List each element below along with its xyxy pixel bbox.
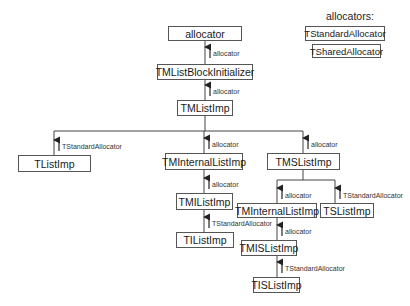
node-tlistimp: TListImp <box>18 155 91 172</box>
edge-label: allocator <box>311 141 337 148</box>
legend-title: allocators: <box>326 10 374 22</box>
node-tilistimp: TIListImp <box>176 232 234 248</box>
legend-tsharedallocator: TSharedAllocator <box>312 44 381 58</box>
node-tmislistimp: TMISListImp <box>241 240 297 256</box>
edge-label: allocator <box>285 228 311 235</box>
node-tmslistimp: TMSListImp <box>267 153 340 170</box>
edge-label: allocator <box>212 141 238 148</box>
node-tslistimp: TSListImp <box>320 203 374 218</box>
edge-label: allocator <box>212 181 238 188</box>
edge-label: TStandardAllocator <box>285 265 345 272</box>
edge-label: TStandardAllocator <box>62 143 122 150</box>
edge-label: allocator <box>213 88 239 95</box>
edge-label: TStandardAllocator <box>212 220 272 227</box>
edge-label: allocator <box>285 192 311 199</box>
node-tislistimp: TISListImp <box>253 277 300 293</box>
node-tminternallistimp-right: TMInternalListImp <box>237 203 317 218</box>
class-diagram: allocators: TStandardAllocator TSharedAl… <box>0 0 410 306</box>
node-tmilistimp: TMIListImp <box>176 193 233 210</box>
node-tmlistimp: TMListImp <box>177 100 233 116</box>
edge-label: TStandardAllocator <box>343 192 403 199</box>
legend-tstandardallocator: TStandardAllocator <box>305 26 385 41</box>
edge-label: allocator <box>213 50 239 57</box>
node-tmlistblockinitializer: TMListBlockInitializer <box>157 64 253 80</box>
node-tminternallistimp-mid: TMInternalListImp <box>165 153 243 170</box>
node-allocator: allocator <box>168 26 242 41</box>
